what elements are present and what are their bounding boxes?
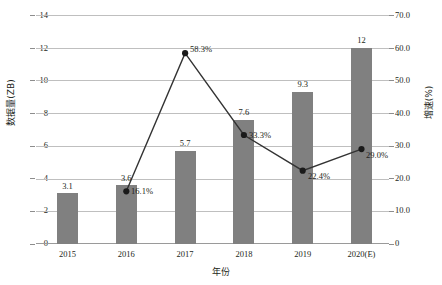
y-axis-right-tick: 30.0 xyxy=(395,141,425,150)
y-axis-left-tickmark xyxy=(30,48,35,49)
y-axis-right-tick: 10.0 xyxy=(395,206,425,215)
y-axis-right-tickmark xyxy=(389,113,394,114)
chart-figure: 数据量(ZB) 增速(%) 14 12 10 8 6 4 2 0 70.0 60… xyxy=(0,0,442,285)
y-axis-left-tickmark xyxy=(30,113,35,114)
y-axis-left-tickmark xyxy=(30,80,35,81)
y-axis-left-tickmark xyxy=(30,146,35,147)
y-axis-right-tickmark xyxy=(389,48,394,49)
y-axis-right-tickmark xyxy=(389,178,394,179)
growth-rate-marker xyxy=(358,146,364,152)
growth-rate-label-2017: 58.3% xyxy=(190,45,212,54)
growth-rate-marker xyxy=(300,168,306,174)
plot-area: 3.1 3.6 5.7 7.6 9.3 12 16.1% 58.3% 33.3%… xyxy=(36,15,389,244)
y-axis-right-tick: 50.0 xyxy=(395,76,425,85)
x-axis-title: 年份 xyxy=(0,265,442,278)
x-axis-tick-2020: 2020(E) xyxy=(327,250,397,259)
y-axis-right-tickmark xyxy=(389,211,394,212)
growth-rate-marker xyxy=(182,50,188,56)
y-axis-left-title: 数据量(ZB) xyxy=(4,55,17,151)
growth-rate-label-2018: 33.3% xyxy=(249,131,271,140)
y-axis-right-title: 增速(%) xyxy=(422,55,435,151)
growth-rate-marker xyxy=(123,188,129,194)
y-axis-right-tick: 20.0 xyxy=(395,174,425,183)
growth-rate-line-series xyxy=(36,15,389,244)
y-axis-left-tickmark xyxy=(30,178,35,179)
growth-rate-marker xyxy=(241,132,247,138)
growth-rate-label-2016: 16.1% xyxy=(131,187,153,196)
growth-rate-label-2019: 22.4% xyxy=(308,172,330,181)
y-axis-left-tickmark xyxy=(30,211,35,212)
y-axis-right-tickmark xyxy=(389,244,394,245)
y-axis-right-tickmark xyxy=(389,15,394,16)
y-axis-right-tick: 40.0 xyxy=(395,109,425,118)
y-axis-left-tickmark xyxy=(30,15,35,16)
y-axis-right-tick: 0 xyxy=(395,239,425,248)
growth-rate-label-2020: 29.0% xyxy=(366,151,388,160)
y-axis-right-tickmark xyxy=(389,146,394,147)
y-axis-right-tick: 60.0 xyxy=(395,44,425,53)
y-axis-left-tickmark xyxy=(30,244,35,245)
y-axis-right-tick: 70.0 xyxy=(395,11,425,20)
y-axis-right-tickmark xyxy=(389,80,394,81)
